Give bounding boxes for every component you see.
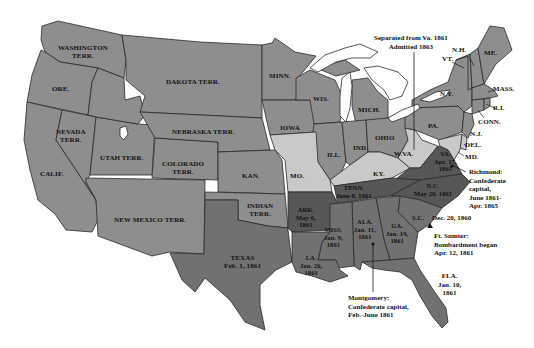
label-michigan: MICH.: [358, 106, 380, 114]
region-dakota: [122, 35, 262, 118]
label-date: 1861: [327, 241, 340, 248]
label-north-carolina: N.C.May 20, 1861: [414, 182, 452, 197]
region-utah: [90, 117, 155, 175]
md-pointer-line: [458, 152, 464, 156]
label-tennessee: TENN.June 8, 1861: [336, 184, 372, 199]
label-minnesota: MINN.: [269, 72, 291, 80]
label-kansas: KAN.: [242, 172, 260, 180]
annotation-text: Admitted 1863: [389, 43, 433, 51]
label-washington: WASHINGTONTERR.: [58, 44, 108, 60]
label-indiana: IND.: [353, 144, 368, 152]
label-text: WASHINGTON: [58, 44, 108, 52]
label-new-jersey: N.J.: [470, 130, 482, 138]
annotation-text: capital,: [469, 185, 491, 193]
label-date: 1861: [443, 289, 457, 297]
region-connecticut: [472, 99, 484, 114]
label-text: TENN.: [344, 184, 364, 191]
label-text: N.C.: [427, 182, 440, 189]
label-west-virginia: W.VA.: [394, 150, 414, 158]
label-delaware: DEL.: [465, 141, 482, 149]
label-date: May 6,: [296, 214, 316, 221]
label-arkansas: ARK.May 6,1861: [296, 206, 316, 229]
label-text: MISS.: [324, 226, 342, 233]
label-iowa: IOWA: [280, 124, 300, 132]
label-south-carolina: S.C.: [412, 214, 424, 222]
label-california: CALIF.: [40, 170, 64, 178]
label-south-carolina-date: Dec. 20, 1860: [432, 214, 471, 223]
label-mississippi: MISS.Jan. 9,1861: [324, 226, 343, 249]
annotation-text: Apr. 1865: [469, 202, 498, 210]
annotation-text: Separated from Va. 1861: [374, 34, 448, 42]
annotation-west-virginia: Separated from Va. 1861Admitted 1863: [374, 34, 448, 51]
label-date: Apr. 17,: [434, 158, 457, 165]
label-text: ALA.: [357, 218, 373, 225]
label-nebraska: NEBRASKA TERR.: [172, 128, 235, 136]
annotation-text: Apr. 12, 1861: [434, 249, 473, 257]
label-new-york: N.Y.: [440, 90, 453, 98]
annotation-text: Ft. Sumter:: [434, 232, 469, 240]
label-date: Jan. 26,: [300, 262, 322, 269]
annotation-text: Bombardment began: [434, 241, 497, 249]
label-text: INDIAN: [247, 202, 273, 210]
label-nevada: NEVADATERR.: [56, 128, 86, 144]
annotation-text: Confederate: [469, 177, 506, 185]
label-louisiana: LA.Jan. 26,1861: [300, 254, 322, 277]
label-maryland: MD.: [465, 153, 479, 161]
label-colorado: COLORADOTERR.: [162, 160, 204, 176]
label-date: 1861: [358, 233, 371, 240]
label-wisconsin: WIS.: [313, 95, 329, 103]
label-texas: TEXASFeb. 1, 1861: [224, 254, 261, 270]
label-text: TEXAS: [231, 254, 255, 262]
label-text: LA.: [306, 254, 317, 261]
label-date: Feb. 1, 1861: [224, 262, 261, 270]
label-text: TERR.: [60, 136, 82, 144]
label-pennsylvania: PA.: [428, 122, 439, 130]
label-text: FLA.: [442, 272, 458, 280]
label-date: 1861: [299, 221, 312, 228]
montgomery-dot: [371, 242, 374, 245]
label-date: Jan. 11,: [354, 226, 376, 233]
label-date: Jan. 10,: [438, 281, 461, 289]
label-text: TERR.: [72, 52, 94, 60]
label-date: 1861: [304, 269, 317, 276]
label-date: June 8, 1861: [336, 192, 372, 199]
label-alabama: ALA.Jan. 11,1861: [354, 218, 376, 241]
label-maine: ME.: [484, 49, 497, 57]
label-illinois: ILL.: [327, 151, 341, 159]
label-new-mexico: NEW MEXICO TERR.: [114, 216, 186, 224]
label-date: 1861: [390, 237, 403, 244]
label-date: Jan. 9,: [324, 234, 343, 241]
annotation-text: Feb.-June 1861: [348, 311, 394, 319]
label-ohio: OHIO: [375, 134, 394, 142]
label-kentucky: KY.: [373, 170, 385, 178]
label-florida: FLA.Jan. 10,1861: [438, 272, 461, 298]
label-text: NEVADA: [56, 128, 86, 136]
label-text: VA.: [440, 150, 450, 157]
label-date: 1861: [439, 165, 452, 172]
region-rhode-island: [484, 98, 490, 110]
label-georgia: GA.Jan. 19,1861: [386, 222, 408, 245]
annotation-text: Confederate capital,: [348, 303, 409, 311]
lake-michigan: [340, 72, 352, 122]
label-indian: INDIANTERR.: [247, 202, 273, 218]
label-rhode-island: R.I.: [493, 104, 505, 112]
label-text: TERR.: [172, 168, 194, 176]
label-connecticut: CONN.: [478, 118, 501, 126]
label-virginia: VA.Apr. 17,1861: [434, 150, 457, 173]
label-text: GA.: [391, 222, 403, 229]
label-massachusetts: MASS.: [493, 85, 515, 93]
annotation-text: Montgomery:: [348, 294, 389, 302]
region-new-york: [412, 56, 472, 112]
annotation-montgomery: Montgomery:Confederate capital,Feb.-June…: [348, 294, 409, 320]
label-date: May 20, 1861: [414, 190, 452, 197]
label-new-hampshire: N.H.: [452, 46, 466, 54]
label-text: ARK.: [298, 206, 314, 213]
annotation-richmond: Richmond:Confederatecapital,June 1861-Ap…: [469, 168, 506, 211]
label-date: Jan. 19,: [386, 230, 408, 237]
label-text: COLORADO: [162, 160, 204, 168]
annotation-text: Richmond:: [469, 168, 502, 176]
label-missouri: MO.: [290, 172, 304, 180]
label-text: TERR.: [249, 210, 271, 218]
label-dakota: DAKOTA TERR.: [166, 78, 220, 86]
label-utah: UTAH TERR.: [100, 154, 144, 162]
